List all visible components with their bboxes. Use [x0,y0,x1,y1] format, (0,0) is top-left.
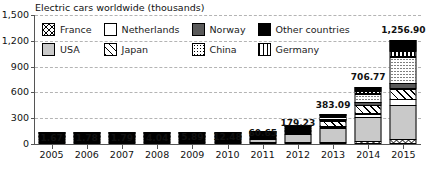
legend-item-label: China [210,44,237,55]
bar-segment-china [390,57,417,84]
x-axis-label: 2011 [251,149,275,161]
chart-title: Electric cars worldwide (thousands) [35,2,204,14]
bar-segment-france [320,142,347,144]
x-axis-label: 2012 [286,149,310,161]
y-axis-label: 1,500 [2,10,29,20]
dark-gray-swatch [192,23,205,36]
bar-2012[interactable] [284,125,311,144]
legend-item-china[interactable]: China [192,43,246,56]
bar-value-label: 383.09 [316,100,351,110]
bar-segment-france [390,139,417,144]
bar-segment-france [355,141,382,144]
y-axis-line [34,15,35,145]
y-axis-tick [31,41,35,42]
legend-item-germany[interactable]: Germany [258,43,350,56]
dotted-swatch [192,43,205,56]
bar-value-label: 179.23 [280,118,315,128]
legend-item-label: USA [60,44,80,55]
chart-legend: FranceNetherlandsNorwayOther countriesUS… [42,19,350,59]
y-axis-label: 900 [11,62,29,72]
bar-value-label: 1.78 [76,133,98,143]
bar-segment-france [284,142,311,144]
black-swatch [258,23,271,36]
legend-item-label: Other countries [276,24,350,35]
y-axis-label: 600 [11,87,29,97]
bar-value-label: 1.79 [111,133,133,143]
y-axis-label: 300 [11,113,29,123]
bar-segment-other-countries [390,40,417,52]
light-gray-swatch [42,43,55,56]
crosshatch-swatch [42,23,55,36]
vertical-stripe-swatch [258,43,271,56]
legend-item-label: Norway [210,24,246,35]
x-axis-label: 2008 [145,149,169,161]
y-axis-tick [31,15,35,16]
x-axis-label: 2010 [215,149,239,161]
legend-item-label: France [60,24,92,35]
bar-segment-france [214,142,241,144]
bar-2015[interactable] [390,40,417,144]
bar-2014[interactable] [355,87,382,144]
bar-value-label: 4.04 [146,133,168,143]
y-axis-tick [31,144,35,145]
legend-item-other-countries[interactable]: Other countries [258,23,350,36]
x-axis-label: 2007 [110,149,134,161]
legend-item-label: Netherlands [122,24,180,35]
bar-value-label: 12.48 [213,132,241,142]
bar-segment-usa [320,128,347,143]
bar-value-label: 5.89 [181,132,203,142]
bar-segment-japan [390,89,417,100]
bar-value-label: 1,256.90 [381,25,425,35]
y-axis-tick [31,92,35,93]
x-axis-label: 2006 [75,149,99,161]
diagonal-stripe-swatch [104,43,117,56]
legend-item-norway[interactable]: Norway [192,23,246,36]
white-swatch [104,23,117,36]
bar-value-label: 706.77 [351,72,386,82]
x-axis-label: 2013 [321,149,345,161]
legend-item-japan[interactable]: Japan [104,43,180,56]
x-axis-label: 2009 [180,149,204,161]
x-axis-label: 2005 [39,149,63,161]
bar-segment-france [249,142,276,144]
bar-2013[interactable] [320,114,347,144]
legend-item-label: Japan [122,44,149,55]
bar-value-label: 60.65 [248,128,276,138]
x-axis-label: 2014 [356,149,380,161]
x-axis-label: 2015 [391,149,415,161]
bar-segment-usa [355,117,382,142]
gridline [35,67,421,68]
legend-item-label: Germany [276,44,320,55]
y-axis-tick [31,118,35,119]
legend-item-france[interactable]: France [42,23,92,36]
legend-item-usa[interactable]: USA [42,43,92,56]
y-axis-label: 1,200 [2,36,29,46]
bar-value-label: 1.67 [40,133,62,143]
legend-item-netherlands[interactable]: Netherlands [104,23,180,36]
bar-segment-usa [390,105,417,140]
y-axis-tick [31,67,35,68]
y-axis-label: 0 [23,139,29,149]
gridline [35,15,421,16]
